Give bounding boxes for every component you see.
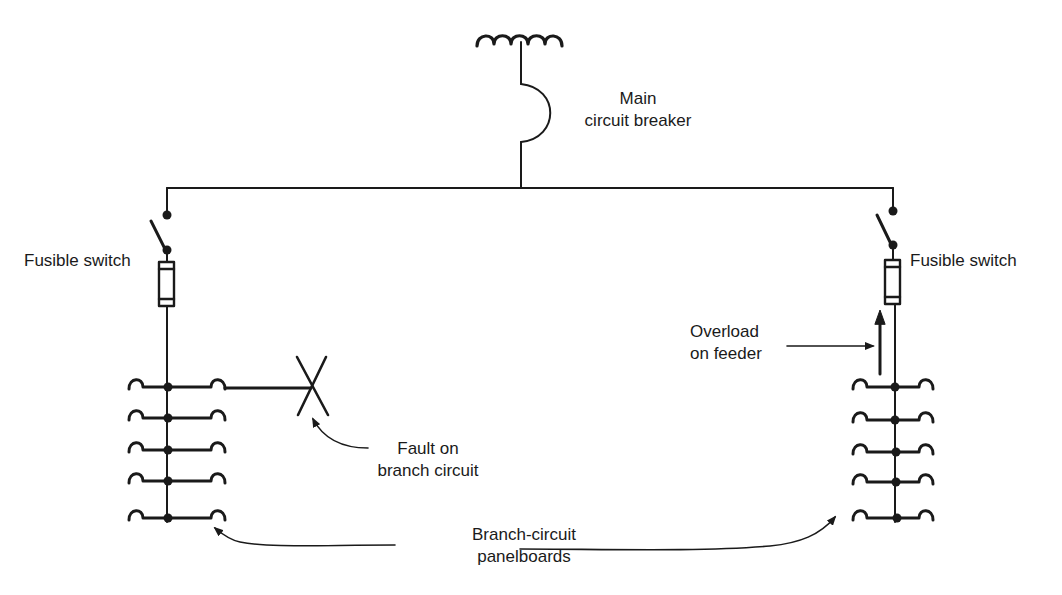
overload-current-arrow-icon xyxy=(875,310,885,374)
fuse-right-icon xyxy=(885,260,900,304)
switch-blade-right-icon xyxy=(877,215,891,244)
panelboards-label-line1: Branch-circuit xyxy=(436,524,612,546)
fusible-switch-right-label: Fusible switch xyxy=(910,250,1017,272)
main-breaker-label-line1: Main xyxy=(568,88,708,110)
panelboard-left-icon xyxy=(129,380,225,520)
fault-label-line2: branch circuit xyxy=(352,460,504,482)
fault-x-icon xyxy=(297,357,328,415)
diagram-drawing xyxy=(0,0,1062,595)
fusible-switch-left-label: Fusible switch xyxy=(24,250,131,272)
main-breaker-label: Main circuit breaker xyxy=(568,88,708,132)
one-line-diagram: Main circuit breaker Fusible switch Fusi… xyxy=(0,0,1062,595)
fuse-left-icon xyxy=(159,262,174,306)
overload-label-line2: on feeder xyxy=(690,343,762,365)
panelboards-label-line2: panelboards xyxy=(436,546,612,568)
panelboards-label: Branch-circuit panelboards xyxy=(436,524,612,568)
panelboard-left-pointer-arrow xyxy=(215,528,395,546)
overload-label: Overload on feeder xyxy=(690,321,762,365)
overload-label-line1: Overload xyxy=(690,321,762,343)
fault-label-line1: Fault on xyxy=(352,438,504,460)
transformer-icon xyxy=(477,36,562,46)
main-breaker-icon xyxy=(521,84,550,142)
fault-label: Fault on branch circuit xyxy=(352,438,504,482)
switch-blade-left-icon xyxy=(151,221,165,249)
main-breaker-label-line2: circuit breaker xyxy=(568,110,708,132)
